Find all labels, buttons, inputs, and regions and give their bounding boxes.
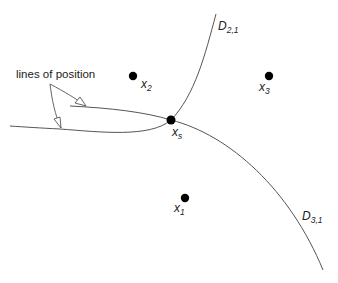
label-x1: x1 (173, 201, 185, 217)
diagram-canvas: lines of position x2 x3 xs x1 D2,1 D3,1 (0, 0, 338, 283)
callout-label: lines of position (16, 68, 95, 80)
arrowhead-lower-icon (54, 117, 61, 128)
curve-d31 (70, 106, 323, 270)
label-xs: xs (171, 125, 183, 141)
arrowhead-upper-icon (75, 97, 86, 106)
label-d31: D3,1 (302, 209, 323, 225)
point-x2 (129, 72, 137, 80)
label-x2: x2 (140, 77, 152, 93)
label-d21: D2,1 (218, 19, 239, 35)
point-xs (167, 116, 176, 125)
label-x3: x3 (258, 80, 270, 96)
point-x1 (181, 194, 189, 202)
point-x3 (265, 72, 273, 80)
